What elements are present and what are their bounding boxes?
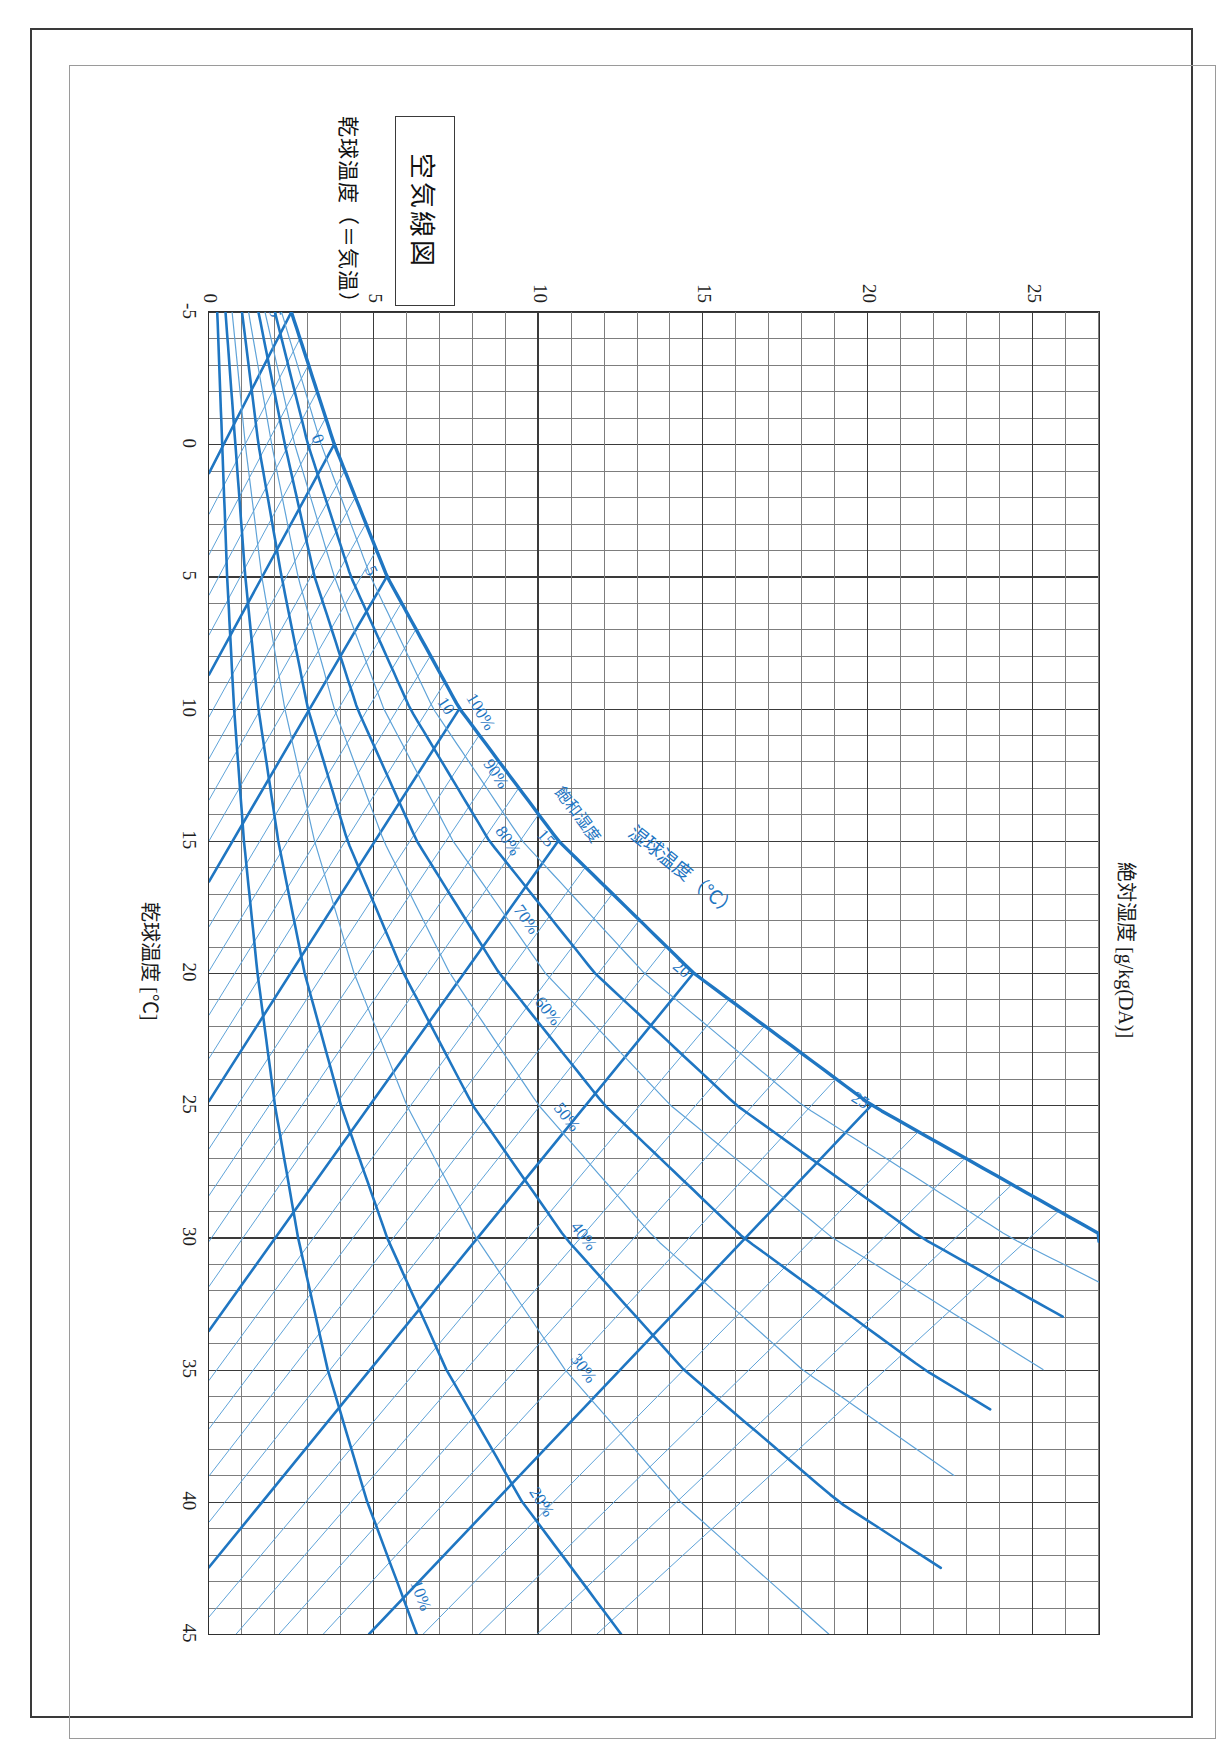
page-title: 空気線図 <box>406 153 443 269</box>
wet-bulb-line-27 <box>479 1158 965 1634</box>
y-tick-label-20: 20 <box>858 265 880 303</box>
y-tick-label-15: 15 <box>693 265 715 303</box>
wet-bulb-line-26 <box>423 1132 918 1634</box>
y-tick-label-10: 10 <box>528 265 550 303</box>
rh-curve-100 <box>291 312 1099 1241</box>
wet-bulb-line-7 <box>209 629 416 971</box>
rh-curve-30 <box>232 312 829 1634</box>
x-axis-title: 乾球温度 [℃] <box>137 902 166 1020</box>
psychrometric-chart-page: 空気線図 乾球温度（＝気温）と湿球温度については p.63 を参照 100%90… <box>65 56 1155 1686</box>
x-tick-label-0: 0 <box>178 438 200 448</box>
x-tick-label-5: 5 <box>178 571 200 581</box>
x-tick-label-20: 20 <box>178 963 200 982</box>
wet-bulb-line-25 <box>369 1105 871 1634</box>
wet-bulb-line-16 <box>209 867 585 1380</box>
chart-curves <box>209 312 1099 1634</box>
y-tick-label-25: 25 <box>1023 265 1045 303</box>
plot-area: 100%90%80%70%60%50%40%30%20%10%飽和湿度-5051… <box>208 311 1100 1635</box>
wet-bulb-line-8 <box>209 656 431 1015</box>
wet-bulb-line-12 <box>209 762 499 1196</box>
wet-bulb-line-14 <box>209 814 539 1286</box>
wet-bulb-line-23 <box>279 1052 800 1634</box>
x-tick-label-45: 45 <box>178 1624 200 1643</box>
y-tick-label-0: 0 <box>199 265 221 303</box>
x-tick-label-25: 25 <box>178 1095 200 1114</box>
scanned-page: 空気線図 乾球温度（＝気温）と湿球温度については p.63 を参照 100%90… <box>0 0 1219 1742</box>
rh-curve-60 <box>258 312 990 1409</box>
x-tick-label-35: 35 <box>178 1359 200 1378</box>
chart-title-box: 空気線図 <box>395 116 455 306</box>
y-axis-title: 絶対湿度 [g/kg(DA)] <box>1113 862 1142 1038</box>
rh-curve-50 <box>248 312 953 1475</box>
wet-bulb-line-21 <box>209 999 729 1617</box>
y-tick-label-5: 5 <box>363 265 385 303</box>
x-tick-label-30: 30 <box>178 1227 200 1246</box>
grid-vline <box>209 1634 1099 1635</box>
x-tick-label-15: 15 <box>178 830 200 849</box>
wet-bulb-line-15 <box>209 841 558 1331</box>
x-tick-label-40: 40 <box>178 1491 200 1510</box>
x-tick-label--5: -5 <box>178 303 200 319</box>
x-tick-label-10: 10 <box>178 698 200 717</box>
